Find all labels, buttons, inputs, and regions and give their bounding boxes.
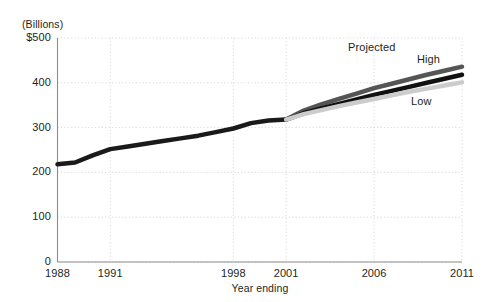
- x-tick-label: 2006: [349, 267, 399, 279]
- chart-figure: (Billions) 0100200300400$500 19881991199…: [0, 0, 499, 302]
- y-axis-unit-label: (Billions): [22, 18, 63, 30]
- data-series-lines: [58, 67, 463, 165]
- x-axis-title: Year ending: [200, 282, 320, 294]
- series-line-actual: [58, 120, 287, 165]
- y-tick-label: 100: [6, 210, 51, 222]
- annotation-high: High: [417, 53, 440, 65]
- x-tick-label: 2011: [437, 267, 487, 279]
- x-tick-label: 2001: [261, 267, 311, 279]
- x-tick-label: 1988: [33, 267, 83, 279]
- annotation-projected: Projected: [348, 41, 395, 53]
- y-tick-label: 400: [6, 76, 51, 88]
- x-tick-label: 1991: [85, 267, 135, 279]
- y-tick-label: 300: [6, 121, 51, 133]
- y-tick-label: 0: [6, 255, 51, 267]
- x-tick-label: 1998: [208, 267, 258, 279]
- annotation-low: Low: [411, 95, 431, 107]
- chart-plot-svg: [0, 0, 499, 302]
- y-tick-label: 200: [6, 165, 51, 177]
- y-tick-label: $500: [6, 31, 51, 43]
